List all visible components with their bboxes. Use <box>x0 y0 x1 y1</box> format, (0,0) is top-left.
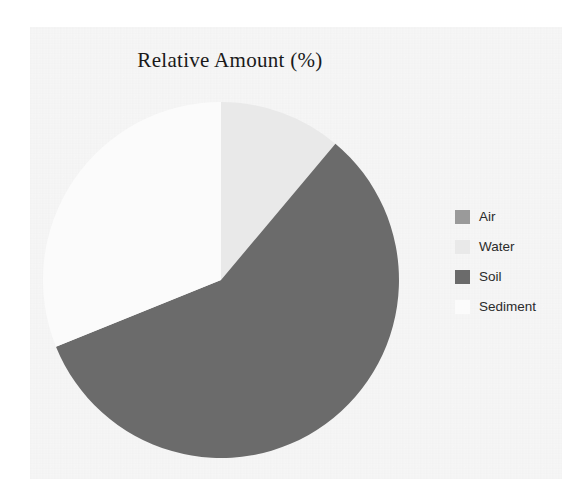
legend-item-label: Water <box>479 240 515 254</box>
legend-item-soil[interactable]: Soil <box>455 266 580 287</box>
legend-item-water[interactable]: Water <box>455 236 580 257</box>
pie-chart <box>43 102 399 458</box>
legend-swatch-air-icon <box>455 210 470 224</box>
legend-swatch-water-icon <box>455 240 470 254</box>
chart-legend: AirWaterSoilSediment <box>455 206 580 326</box>
pie-chart-svg <box>43 102 399 458</box>
chart-page: Relative Amount (%) AirWaterSoilSediment <box>0 0 586 500</box>
legend-item-label: Air <box>479 210 496 224</box>
page-title: Relative Amount (%) <box>0 48 460 73</box>
legend-swatch-sediment-icon <box>455 300 470 314</box>
legend-item-sediment[interactable]: Sediment <box>455 296 580 317</box>
pie-slice-group <box>43 102 399 458</box>
legend-item-label: Soil <box>479 270 502 284</box>
legend-swatch-soil-icon <box>455 270 470 284</box>
legend-item-air[interactable]: Air <box>455 206 580 227</box>
legend-item-label: Sediment <box>479 300 536 314</box>
